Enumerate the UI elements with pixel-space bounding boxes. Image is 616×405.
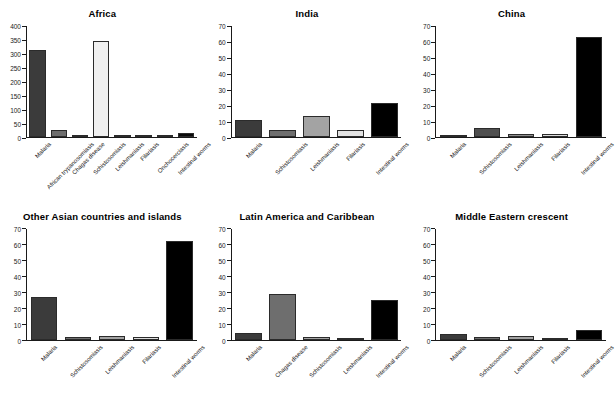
- y-axis-tick: [22, 292, 26, 293]
- x-label-slot: Filariasis: [538, 342, 572, 402]
- y-axis-tick: [431, 324, 435, 325]
- bar-slot: [266, 26, 300, 137]
- y-axis-tick: [22, 54, 26, 55]
- x-axis-tick-label: Intestinal worms: [580, 141, 616, 177]
- bar: [269, 130, 295, 137]
- x-label-slot: Filariasis: [133, 139, 154, 199]
- bar: [99, 336, 125, 340]
- x-axis-line: [435, 137, 606, 138]
- x-label-slot: Malaria: [27, 342, 61, 402]
- bar-slot: [436, 26, 470, 137]
- bar-slot: [436, 229, 470, 340]
- y-axis-tick: [227, 244, 231, 245]
- plot-area: 010203040506070: [231, 26, 402, 138]
- bar-slot: [333, 229, 367, 340]
- y-axis-tick: [227, 340, 231, 341]
- bar: [135, 135, 152, 137]
- chart-panel: Africa050100150200250300350400MalariaAfr…: [0, 0, 205, 203]
- y-axis-tick-label: 50: [423, 55, 430, 62]
- bar-slot: [266, 229, 300, 340]
- bar-slot: [175, 26, 196, 137]
- x-axis-line: [435, 340, 606, 341]
- x-axis-tick-label: Filariasis: [550, 344, 572, 366]
- y-axis-tick-label: 0: [17, 337, 21, 344]
- y-axis-tick-label: 300: [10, 51, 21, 58]
- x-axis-tick-label: Filariasis: [346, 141, 368, 163]
- y-axis-tick: [22, 124, 26, 125]
- x-axis-line: [26, 137, 197, 138]
- y-axis-tick-label: 70: [218, 23, 225, 30]
- y-axis-tick: [227, 138, 231, 139]
- y-axis-tick-label: 30: [14, 289, 21, 296]
- chart-title: Latin America and Caribbean: [205, 211, 410, 222]
- bar-slot: [470, 26, 504, 137]
- chart-title: Other Asian countries and islands: [0, 211, 205, 222]
- y-axis-tick-label: 10: [14, 321, 21, 328]
- y-axis-tick-label: 70: [423, 225, 430, 232]
- y-axis-tick-label: 150: [10, 93, 21, 100]
- y-axis-tick-label: 0: [427, 135, 431, 142]
- y-axis-tick-label: 60: [218, 39, 225, 46]
- bar: [542, 338, 568, 340]
- x-label-slot: Leishmaniasis: [333, 342, 367, 402]
- y-axis-tick: [227, 324, 231, 325]
- y-axis-tick-label: 20: [218, 103, 225, 110]
- y-axis-tick: [227, 292, 231, 293]
- y-axis-tick-label: 0: [17, 135, 21, 142]
- x-label-slot: Malaria: [232, 139, 266, 199]
- bar: [72, 135, 89, 137]
- bar-slot: [232, 229, 266, 340]
- x-axis-tick-label: Malaria: [245, 344, 264, 363]
- y-axis-tick-label: 20: [423, 305, 430, 312]
- y-axis-tick-label: 60: [218, 241, 225, 248]
- bar-slot: [538, 229, 572, 340]
- x-axis-labels: MalariaChagas diseaseSchistosomiasisLeis…: [232, 342, 402, 402]
- chart-title: Africa: [0, 8, 205, 19]
- x-label-slot: Intestinal worms: [572, 342, 606, 402]
- plot-area: 010203040506070: [231, 229, 402, 341]
- chart-panel: China010203040506070MalariaSchistosomias…: [409, 0, 614, 203]
- y-axis-tick-label: 10: [423, 321, 430, 328]
- y-axis-tick-label: 250: [10, 65, 21, 72]
- y-axis-tick: [227, 276, 231, 277]
- x-label-slot: Schistosomiasis: [470, 342, 504, 402]
- y-axis-tick: [431, 42, 435, 43]
- y-axis-tick-label: 40: [423, 71, 430, 78]
- y-axis-tick-label: 10: [218, 119, 225, 126]
- x-label-slot: Leishmaniasis: [95, 342, 129, 402]
- y-axis-tick-label: 40: [218, 71, 225, 78]
- bar: [508, 336, 534, 339]
- bar: [114, 135, 131, 137]
- bar: [474, 128, 500, 138]
- y-axis-tick: [227, 90, 231, 91]
- bar-series: [232, 26, 402, 137]
- chart-title: Middle Eastern crescent: [409, 211, 614, 222]
- chart-panel: India010203040506070MalariaSchistosomias…: [205, 0, 410, 203]
- y-axis-tick: [22, 276, 26, 277]
- plot-area: 050100150200250300350400: [26, 26, 197, 138]
- y-axis-tick: [227, 308, 231, 309]
- x-label-slot: Leishmaniasis: [112, 139, 133, 199]
- y-axis-tick: [431, 90, 435, 91]
- bar-series: [27, 229, 197, 340]
- bar: [166, 241, 192, 339]
- y-axis-tick-label: 50: [14, 257, 21, 264]
- x-axis-line: [231, 137, 402, 138]
- x-label-slot: Chagas disease: [266, 342, 300, 402]
- bar-series: [436, 26, 606, 137]
- y-axis-tick-label: 40: [423, 273, 430, 280]
- bar: [542, 134, 568, 137]
- y-axis-tick: [431, 308, 435, 309]
- y-axis-tick: [227, 42, 231, 43]
- y-axis-tick: [431, 292, 435, 293]
- chart-title: India: [205, 8, 410, 19]
- bar-slot: [154, 26, 175, 137]
- x-label-slot: Intestinal worms: [175, 139, 196, 199]
- bar: [303, 116, 329, 137]
- y-axis-tick: [227, 26, 231, 27]
- x-axis-tick-label: Malaria: [40, 344, 59, 363]
- y-axis-tick-label: 0: [222, 135, 226, 142]
- bar: [235, 333, 261, 340]
- bar-slot: [470, 229, 504, 340]
- y-axis-tick-label: 60: [423, 241, 430, 248]
